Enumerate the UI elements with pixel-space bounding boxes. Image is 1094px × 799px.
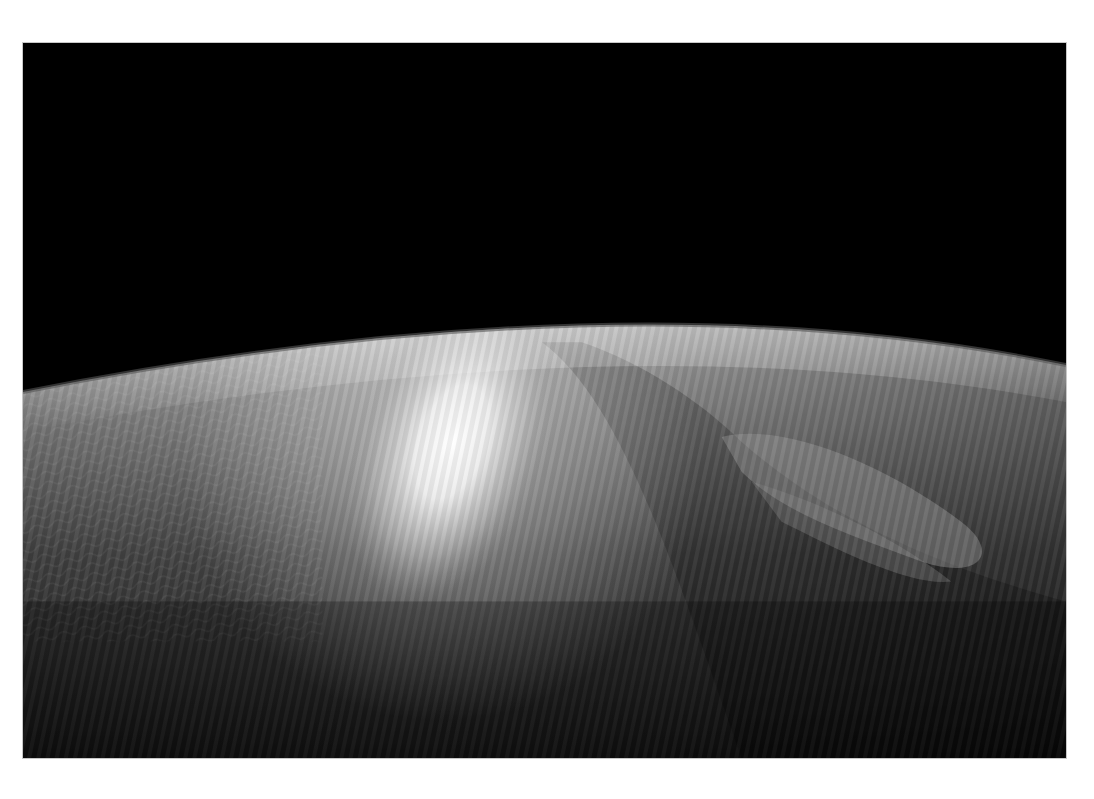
earth-horizon-photo: [22, 42, 1067, 759]
photo-canvas: [23, 43, 1066, 758]
page: [0, 0, 1094, 799]
